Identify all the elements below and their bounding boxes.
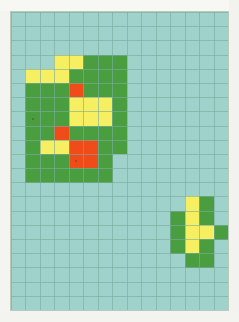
raster-cell-green (214, 225, 229, 240)
raster-cell-red (83, 140, 98, 155)
raster-cell-green (199, 196, 214, 211)
raster-cell-yellow (40, 140, 55, 155)
raster-cell-green (25, 140, 40, 155)
raster-cell-green (40, 97, 55, 112)
raster-cell-green (112, 55, 127, 70)
raster-cell-green (40, 83, 55, 98)
raster-cell-green (98, 55, 113, 70)
raster-cell-yellow (25, 69, 40, 84)
raster-cell-yellow (199, 225, 214, 240)
raster-cell-green (112, 83, 127, 98)
raster-cell-green (69, 126, 84, 141)
raster-cell-green (40, 111, 55, 126)
paper-edge-right (229, 0, 239, 322)
raster-cell-green (40, 168, 55, 183)
raster-cell-yellow (98, 111, 113, 126)
raster-cell-green (98, 83, 113, 98)
raster-cell-yellow (69, 97, 84, 112)
raster-cell-green (98, 140, 113, 155)
raster-cell-yellow (83, 111, 98, 126)
raster-cell-green (185, 253, 200, 268)
raster-cell-green (112, 140, 127, 155)
figure-canvas (0, 0, 239, 322)
raster-cell-yellow (54, 140, 69, 155)
raster-cell-green (98, 154, 113, 169)
raster-cell-yellow (83, 97, 98, 112)
raster-cell-green (54, 168, 69, 183)
paper-edge-bottom (0, 311, 239, 322)
raster-cell-green (98, 69, 113, 84)
raster-cell-green (170, 211, 185, 226)
raster-cell-green (83, 168, 98, 183)
raster-cell-green (112, 126, 127, 141)
raster-cell-yellow (69, 55, 84, 70)
raster-cell-green (40, 154, 55, 169)
raster-cell-green (170, 225, 185, 240)
raster-cell-red (54, 126, 69, 141)
raster-cell-green (25, 154, 40, 169)
raster-cell-green (69, 168, 84, 183)
raster-cell-green (25, 97, 40, 112)
raster-cell-green (69, 69, 84, 84)
raster-cell-green (112, 69, 127, 84)
raster-cell-green (83, 126, 98, 141)
raster-cell-yellow (54, 69, 69, 84)
raster-cell-green (83, 83, 98, 98)
raster-cell-green (199, 253, 214, 268)
raster-cell-green (112, 111, 127, 126)
raster-cell-green (25, 126, 40, 141)
raster-cell-green (54, 97, 69, 112)
raster-cell-yellow (69, 111, 84, 126)
raster-cell-yellow (185, 196, 200, 211)
raster-cell-green (54, 111, 69, 126)
raster-cell-green (98, 126, 113, 141)
raster-cell-green (54, 83, 69, 98)
grid-line-vertical (228, 12, 229, 310)
raster-cell-green (25, 168, 40, 183)
raster-cell-green (98, 168, 113, 183)
paper-edge-left (0, 0, 10, 322)
raster-cell-yellow (98, 97, 113, 112)
raster-cell-green (112, 97, 127, 112)
raster-cell-green (83, 55, 98, 70)
raster-cell-red (69, 83, 84, 98)
raster-cell-red (69, 140, 84, 155)
raster-cell-yellow (40, 69, 55, 84)
raster-cell-yellow (185, 211, 200, 226)
raster-cell-green (199, 239, 214, 254)
map-speck (32, 118, 34, 120)
raster-cell-red (83, 154, 98, 169)
grid-line-horizontal (11, 310, 228, 311)
raster-cell-green (25, 83, 40, 98)
paper-edge-top (0, 0, 239, 11)
raster-cell-green (199, 211, 214, 226)
raster-cell-layer (11, 12, 228, 310)
raster-cell-yellow (185, 225, 200, 240)
raster-cell-yellow (54, 55, 69, 70)
raster-cell-green (54, 154, 69, 169)
raster-cell-green (83, 69, 98, 84)
raster-cell-yellow (185, 239, 200, 254)
raster-map-frame (10, 11, 229, 311)
raster-cell-green (170, 239, 185, 254)
raster-cell-green (40, 126, 55, 141)
